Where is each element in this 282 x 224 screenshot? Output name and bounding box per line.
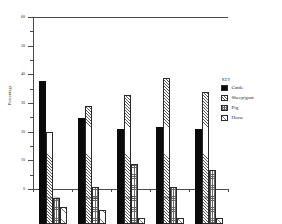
- bar: [177, 218, 184, 224]
- bar: [92, 187, 99, 224]
- legend-swatch-icon: [221, 95, 228, 101]
- y-axis-tick-label: 50: [3, 44, 25, 48]
- bar: [156, 127, 163, 224]
- y-axis-tick-label: 10: [3, 158, 25, 162]
- bar-chart-figure: Percentage 6050403020100 Iron AgeRoman5t…: [0, 0, 282, 224]
- bar: [99, 210, 106, 224]
- bar: [39, 81, 46, 224]
- y-axis-tick: [28, 46, 33, 47]
- bar: [170, 187, 177, 224]
- legend-item-label: Sheep/goat: [232, 95, 254, 100]
- bar: [216, 218, 223, 224]
- legend-swatch-icon: [221, 105, 228, 111]
- chart-legend: KEY CattleSheep/goatPigHorse: [221, 78, 279, 125]
- legend-item: Sheep/goat: [221, 95, 279, 101]
- legend-item: Cattle: [221, 85, 279, 91]
- legend-swatch-icon: [221, 85, 228, 91]
- bar: [124, 95, 131, 224]
- x-axis-tick: [33, 189, 34, 192]
- x-axis-tick: [228, 189, 229, 192]
- bar: [46, 132, 53, 224]
- y-axis-tick-label: 40: [3, 72, 25, 76]
- bar: [117, 129, 124, 224]
- bar: [78, 118, 85, 224]
- legend-swatch-icon: [221, 115, 228, 121]
- legend-item: Pig: [221, 105, 279, 111]
- legend-rows: CattleSheep/goatPigHorse: [221, 85, 279, 122]
- x-axis-tick-label: 7th C.: [186, 196, 232, 201]
- bar: [138, 218, 145, 224]
- legend-title: KEY: [222, 78, 279, 82]
- x-axis-tick: [111, 189, 112, 192]
- bar: [53, 198, 60, 224]
- bar: [131, 164, 138, 224]
- legend-item-label: Pig: [232, 105, 239, 110]
- bar: [163, 78, 170, 224]
- y-axis-tick-label: 60: [3, 15, 25, 19]
- y-axis-minor-tick: [30, 31, 33, 32]
- legend-item-label: Cattle: [232, 85, 244, 90]
- bar: [202, 92, 209, 224]
- bar: [85, 106, 92, 224]
- y-axis-tick: [28, 17, 33, 18]
- x-axis-tick: [189, 189, 190, 192]
- y-axis-tick-label: 0: [3, 187, 25, 191]
- x-axis-tick: [72, 189, 73, 192]
- x-axis-tick: [150, 189, 151, 192]
- y-axis-tick-label: 20: [3, 130, 25, 134]
- legend-item: Horse: [221, 115, 279, 121]
- bar: [60, 207, 67, 224]
- bar: [195, 129, 202, 224]
- legend-item-label: Horse: [232, 115, 244, 120]
- y-axis-tick-label: 30: [3, 101, 25, 105]
